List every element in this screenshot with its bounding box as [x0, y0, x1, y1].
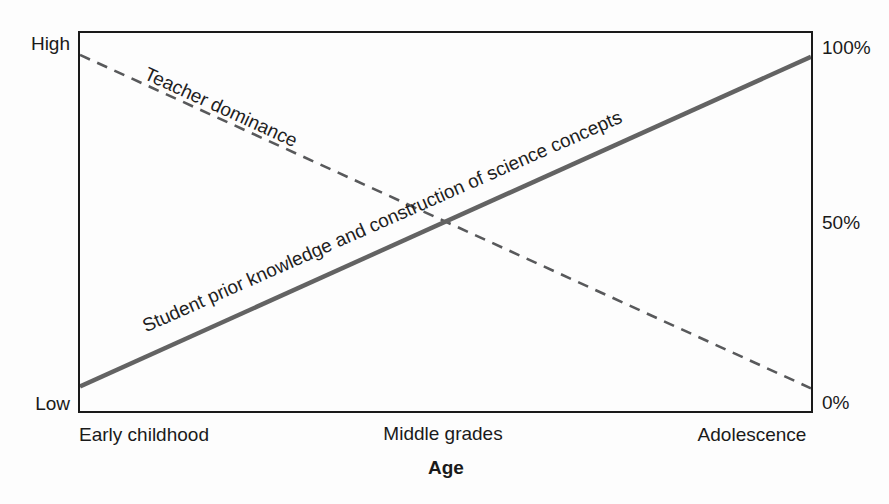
x-axis-tick-middle-grades: Middle grades — [383, 423, 502, 444]
x-axis-tick-early-childhood: Early childhood — [79, 424, 209, 445]
y-axis-right-tick-0: 0% — [822, 392, 849, 413]
x-axis-title: Age — [428, 457, 464, 478]
y-axis-left-label-low: Low — [0, 393, 70, 414]
y-axis-right-tick-50: 50% — [822, 212, 860, 233]
y-axis-right-tick-100: 100% — [822, 37, 871, 58]
x-axis-tick-adolescence: Adolescence — [698, 424, 807, 445]
y-axis-left-label-high: High — [0, 33, 70, 54]
plot-area: Teacher dominance Student prior knowledg… — [78, 31, 813, 413]
line-chart-figure: Teacher dominance Student prior knowledg… — [0, 0, 889, 504]
